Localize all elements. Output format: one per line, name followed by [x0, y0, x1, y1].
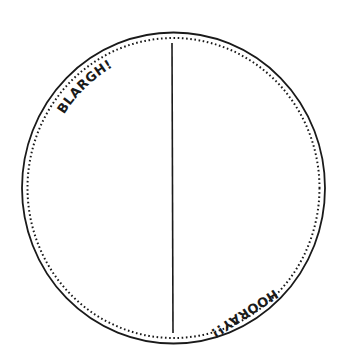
label-blargh: BLARGH! [54, 56, 115, 116]
label-hooray: HOORAY!! [208, 286, 281, 341]
divider-line [172, 43, 173, 333]
divided-circle-diagram: BLARGH! HOORAY!! [0, 0, 346, 363]
